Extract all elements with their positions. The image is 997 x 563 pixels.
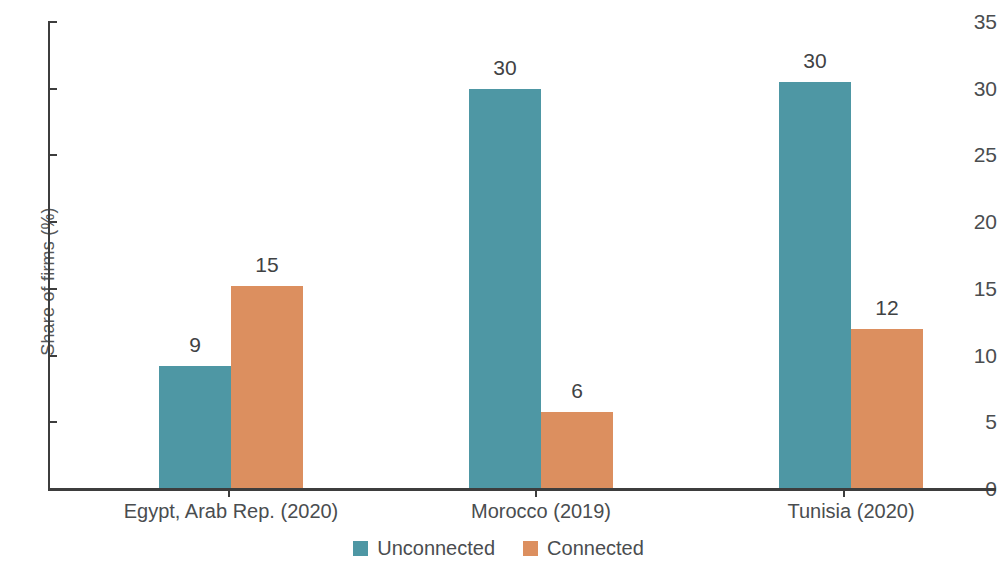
bar-value-label: 12 xyxy=(875,296,898,320)
legend-swatch-connected xyxy=(523,541,538,556)
plot-area: 9153063012 xyxy=(0,0,997,489)
x-axis-category-label: Egypt, Arab Rep. (2020) xyxy=(124,500,339,523)
bar-value-label: 30 xyxy=(493,56,516,80)
bar-unconnected-1 xyxy=(469,89,541,489)
legend-item[interactable]: Unconnected xyxy=(353,538,495,558)
bar-value-label: 30 xyxy=(803,49,826,73)
chart-legend: UnconnectedConnected xyxy=(0,538,997,558)
x-axis-tick xyxy=(535,488,537,497)
bar-value-label: 6 xyxy=(571,379,583,403)
x-axis-category-label: Morocco (2019) xyxy=(471,500,611,523)
x-axis-tick xyxy=(228,488,230,497)
bar-value-label: 9 xyxy=(189,333,201,357)
bar-connected-2 xyxy=(851,329,923,489)
legend-item[interactable]: Connected xyxy=(523,538,644,558)
bar-connected-0 xyxy=(231,286,303,489)
x-axis-tick xyxy=(843,488,845,497)
bar-connected-1 xyxy=(541,412,613,489)
legend-swatch-unconnected xyxy=(353,541,368,556)
legend-label: Connected xyxy=(547,538,644,558)
bar-unconnected-0 xyxy=(159,366,231,489)
bar-value-label: 15 xyxy=(255,253,278,277)
legend-label: Unconnected xyxy=(377,538,495,558)
x-axis-category-label: Tunisia (2020) xyxy=(787,500,914,523)
bar-unconnected-2 xyxy=(779,82,851,489)
x-axis-line xyxy=(48,488,996,491)
bar-chart: Share of firms (%) 05101520253035 915306… xyxy=(0,0,997,563)
